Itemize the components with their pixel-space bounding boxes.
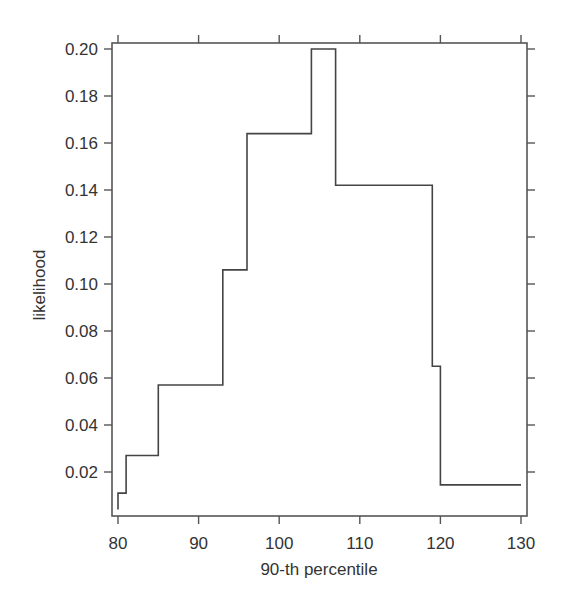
y-tick-label: 0.02 bbox=[65, 463, 98, 482]
x-tick-label: 120 bbox=[426, 534, 454, 553]
x-axis-tick-labels: 8090100110120130 bbox=[109, 534, 536, 553]
y-tick-label: 0.14 bbox=[65, 181, 98, 200]
y-tick-label: 0.18 bbox=[65, 87, 98, 106]
x-axis-ticks bbox=[118, 35, 521, 524]
x-tick-label: 130 bbox=[507, 534, 535, 553]
y-tick-label: 0.08 bbox=[65, 322, 98, 341]
x-axis-label: 90-th percentile bbox=[260, 560, 377, 579]
y-axis-label: likelihood bbox=[30, 250, 49, 321]
y-tick-label: 0.16 bbox=[65, 134, 98, 153]
x-tick-label: 80 bbox=[109, 534, 128, 553]
y-tick-label: 0.10 bbox=[65, 275, 98, 294]
y-tick-label: 0.04 bbox=[65, 416, 98, 435]
step-chart: 8090100110120130 0.020.040.060.080.100.1… bbox=[0, 0, 568, 605]
plot-frame bbox=[112, 43, 527, 516]
x-tick-label: 100 bbox=[265, 534, 293, 553]
y-axis-ticks bbox=[104, 49, 535, 472]
y-axis-tick-labels: 0.020.040.060.080.100.120.140.160.180.20 bbox=[65, 40, 98, 482]
likelihood-step-line bbox=[118, 49, 521, 510]
x-tick-label: 90 bbox=[189, 534, 208, 553]
x-tick-label: 110 bbox=[346, 534, 373, 553]
y-tick-label: 0.12 bbox=[65, 228, 98, 247]
y-tick-label: 0.06 bbox=[65, 369, 98, 388]
y-tick-label: 0.20 bbox=[65, 40, 98, 59]
